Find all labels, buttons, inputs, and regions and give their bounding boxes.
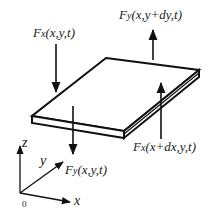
plate-force-diagram: Fx(x,y,t) Fy(x,y+dy,t) Fx(x+dx,y,t) Fy(x… bbox=[0, 0, 208, 224]
force-symbol: F bbox=[33, 25, 41, 40]
axis-label-z: z bbox=[22, 136, 27, 150]
force-args: (x,y+dy,t) bbox=[131, 7, 182, 22]
label-fx-right: Fx(x+dx,y,t) bbox=[133, 140, 196, 153]
force-symbol: F bbox=[65, 162, 73, 177]
label-fy-top: Fy(x,y+dy,t) bbox=[119, 8, 182, 21]
force-args: (x+dx,y,t) bbox=[145, 139, 196, 154]
label-fy-bottom: Fy(x,y,t) bbox=[65, 163, 107, 176]
force-symbol: F bbox=[133, 139, 141, 154]
force-args: (x,y,t) bbox=[45, 25, 75, 40]
plate bbox=[32, 58, 199, 138]
force-symbol: F bbox=[119, 7, 127, 22]
label-fx-left: Fx(x,y,t) bbox=[33, 26, 75, 39]
axis-label-x: x bbox=[74, 194, 80, 208]
force-args: (x,y,t) bbox=[77, 162, 107, 177]
axis-label-y: y bbox=[40, 154, 46, 168]
origin-label: 0 bbox=[22, 200, 27, 209]
diagram-graphics bbox=[0, 0, 208, 224]
